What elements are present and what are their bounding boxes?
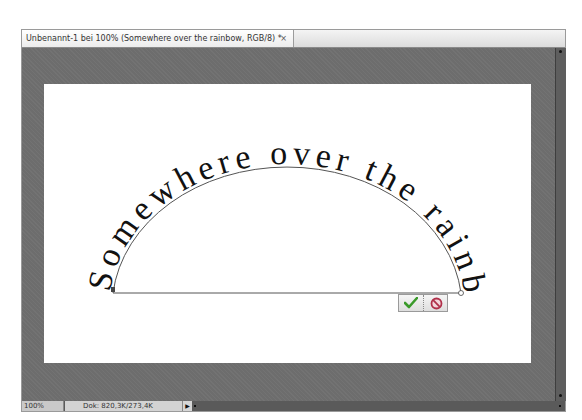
transform-commit-box [398,294,448,312]
commit-button[interactable] [399,295,424,311]
cancel-button[interactable] [424,295,448,311]
path-text: Somewhere over the rainbow [0,0,494,295]
checkmark-icon [404,297,418,309]
text-on-path[interactable]: Somewhere over the rainbow [0,0,582,420]
cancel-icon [430,297,443,310]
